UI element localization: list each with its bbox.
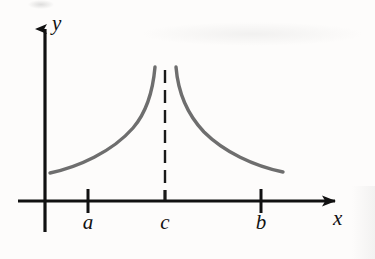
curve-right-branch bbox=[176, 67, 283, 172]
graph-canvas bbox=[0, 0, 375, 259]
x-tick-label-c: c bbox=[151, 212, 179, 233]
x-axis-label: x bbox=[333, 208, 342, 229]
x-tick-label-b: b bbox=[247, 212, 275, 233]
curve-left-branch bbox=[50, 67, 155, 173]
y-axis-label: y bbox=[52, 13, 61, 34]
improper-integral-figure: y x a c b bbox=[0, 0, 375, 259]
x-tick-label-a: a bbox=[74, 212, 102, 233]
